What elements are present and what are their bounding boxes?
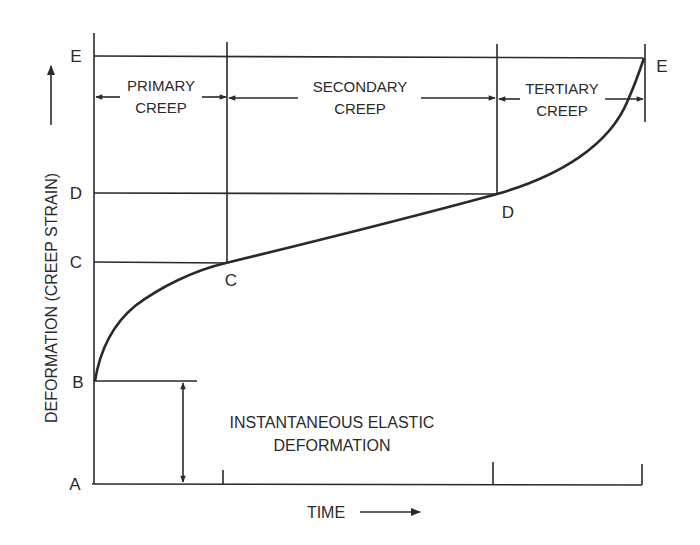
creep-curve-diagram: E D C B A C D E PRIMARY CREEP SECONDARY …	[0, 0, 700, 545]
x-axis	[92, 484, 642, 485]
secondary-label-1: SECONDARY	[313, 78, 408, 95]
level-c-line	[94, 262, 226, 263]
level-d-label: D	[70, 184, 82, 203]
level-d-line	[94, 193, 497, 194]
y-level-labels: E D C B A	[69, 47, 83, 494]
level-e-label: E	[70, 47, 81, 66]
diagram-canvas: E D C B A C D E PRIMARY CREEP SECONDARY …	[0, 0, 700, 545]
tertiary-label-1: TERTIARY	[525, 80, 599, 97]
point-c-label: C	[225, 271, 237, 290]
phase-labels: PRIMARY CREEP SECONDARY CREEP TERTIARY C…	[127, 77, 599, 119]
level-a-label: A	[69, 475, 81, 494]
y-axis-title: DEFORMATION (CREEP STRAIN)	[43, 173, 60, 423]
phase-boundaries	[227, 42, 645, 263]
curve-point-labels: C D E	[225, 57, 668, 290]
secondary-label-2: CREEP	[334, 100, 386, 117]
point-e-label: E	[656, 57, 667, 76]
level-e-line	[94, 56, 643, 58]
primary-label-1: PRIMARY	[127, 77, 195, 94]
level-b-label: B	[72, 373, 83, 392]
level-c-label: C	[70, 253, 82, 272]
point-d-label: D	[502, 203, 514, 222]
elastic-annotation-2: DEFORMATION	[273, 437, 390, 454]
elastic-annotation-1: INSTANTANEOUS ELASTIC	[230, 414, 435, 431]
x-axis-title: TIME	[307, 504, 345, 521]
tertiary-label-2: CREEP	[536, 102, 588, 119]
primary-label-2: CREEP	[135, 99, 187, 116]
